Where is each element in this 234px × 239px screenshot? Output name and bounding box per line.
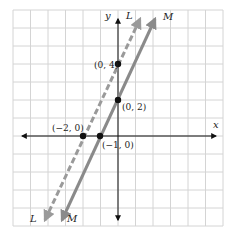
label-point-neg2-0: (−2, 0) [52,123,84,133]
label-point-neg1-0: (−1, 0) [102,140,134,150]
label-point-0-4: (0, 4) [94,60,118,70]
chart-svg: (0, 4) (0, 2) (−2, 0) (−1, 0) x y L M L … [0,0,234,239]
point-M-x-intercept [97,133,103,139]
x-axis-label: x [213,119,219,130]
line-M-label-top: M [162,11,174,22]
y-axis-label: y [104,10,111,21]
line-L-label-bottom: L [29,213,37,224]
point-M-y-intercept [115,97,121,103]
label-point-0-2: (0, 2) [122,102,146,112]
line-L-label-top: L [125,10,133,21]
point-L-x-intercept [80,133,86,139]
coordinate-plane: (0, 4) (0, 2) (−2, 0) (−1, 0) x y L M L … [0,0,234,239]
line-M-label-bottom: M [66,213,78,224]
